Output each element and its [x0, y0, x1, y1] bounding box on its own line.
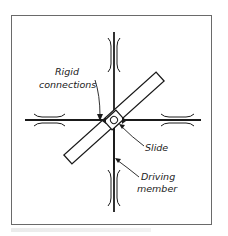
driving-member-leader	[115, 158, 139, 177]
label-rigid-line2: connections	[39, 79, 96, 90]
label-driving-line2: member	[137, 183, 178, 194]
label-slide: Slide	[145, 142, 168, 153]
figure-caption-faint	[11, 228, 151, 232]
slide-leader	[119, 124, 144, 146]
label-rigid-line1: Rigid	[55, 66, 80, 77]
label-driving-line1: Driving	[141, 171, 175, 182]
mechanism-diagram: Rigid connections Slide Driving member	[0, 0, 228, 236]
